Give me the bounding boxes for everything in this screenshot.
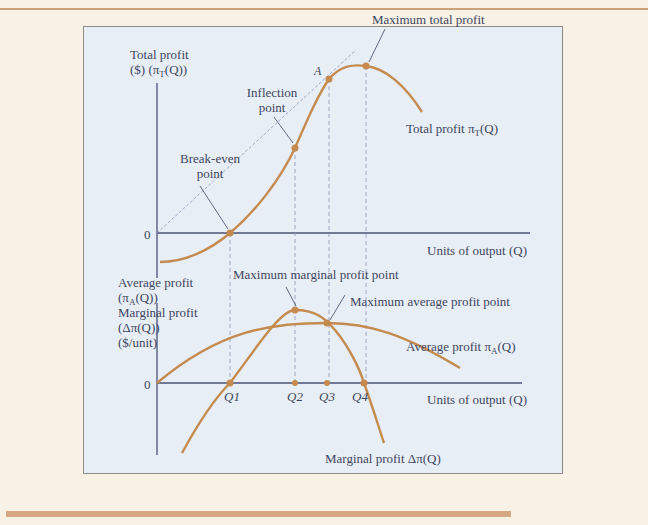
bottom-y-axis-label: Average profit (πA(Q)) Marginal profit (… (118, 275, 198, 350)
marginal-profit-curve (182, 310, 384, 453)
marginal-profit-curve-label: Marginal profit Δπ(Q) (325, 451, 441, 466)
bottom-axes (157, 303, 522, 455)
top-x-axis-label: Units of output (Q) (427, 243, 527, 258)
inflection-point-label: Inflection point (232, 85, 312, 115)
top-zero-label: 0 (144, 227, 151, 242)
q3-label: Q3 (319, 389, 335, 404)
average-profit-curve-label: Average profit πA(Q) (406, 339, 516, 354)
q2-label: Q2 (287, 389, 303, 404)
top-y-axis-label: Total profit ($) (πT(Q)) (130, 47, 189, 77)
point-a-label: A (314, 64, 321, 79)
q1-label: Q1 (224, 389, 240, 404)
q4-label: Q4 (352, 389, 368, 404)
bottom-x-axis-label: Units of output (Q) (427, 392, 527, 407)
break-even-label: Break-even point (168, 151, 252, 181)
chart-svg (0, 0, 648, 525)
max-total-profit-label: Maximum total profit (372, 12, 485, 27)
total-profit-curve-label: Total profit πT(Q) (406, 121, 498, 136)
max-marginal-profit-label: Maximum marginal profit point (233, 267, 399, 282)
bottom-zero-label: 0 (144, 377, 151, 392)
max-average-profit-label: Maximum average profit point (350, 294, 510, 309)
